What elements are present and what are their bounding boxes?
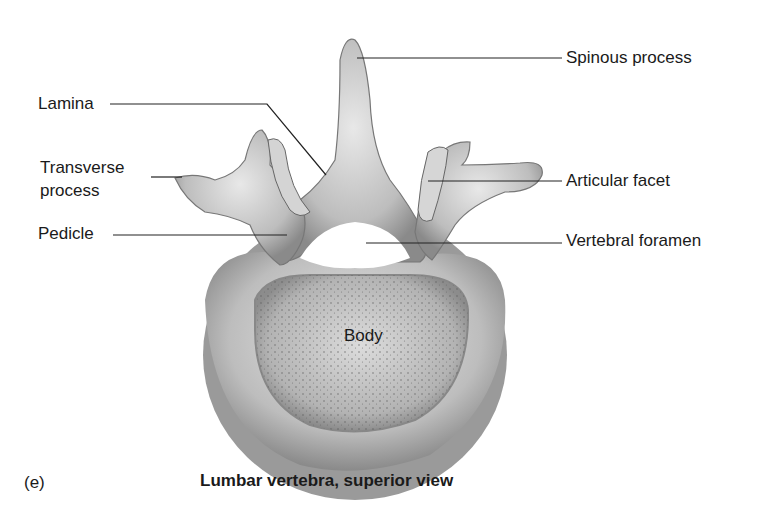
label-transverse-process-line2: process [40, 181, 100, 201]
figure-tag: (e) [24, 473, 45, 493]
figure-caption: Lumbar vertebra, superior view [200, 471, 453, 491]
leader-lamina [110, 104, 326, 175]
label-vertebral-foramen: Vertebral foramen [566, 231, 701, 251]
label-spinous-process: Spinous process [566, 48, 692, 68]
label-articular-facet: Articular facet [566, 171, 670, 191]
label-body: Body [344, 326, 383, 346]
label-transverse-process-line1: Transverse [40, 158, 124, 178]
label-lamina: Lamina [38, 94, 94, 114]
vertebra-illustration [0, 0, 768, 509]
label-pedicle: Pedicle [38, 224, 94, 244]
